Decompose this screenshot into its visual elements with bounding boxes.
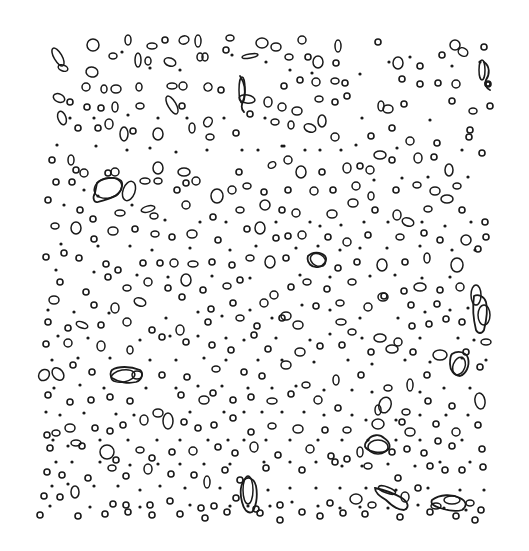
solid-dot — [466, 175, 469, 178]
solid-dot — [108, 356, 111, 359]
solid-dot — [322, 388, 325, 391]
solid-dot — [262, 460, 265, 463]
solid-dot — [185, 116, 188, 119]
solid-dot — [478, 60, 481, 63]
solid-dot — [66, 444, 69, 447]
solid-dot — [220, 384, 223, 387]
solid-dot — [222, 116, 225, 119]
solid-dot — [128, 463, 131, 466]
solid-dot — [264, 60, 267, 63]
solid-dot — [168, 334, 171, 337]
solid-dot — [125, 148, 128, 151]
solid-dot — [350, 413, 353, 416]
solid-dot — [260, 410, 263, 413]
solid-dot — [416, 503, 419, 506]
solid-dot — [339, 223, 342, 226]
solid-dot — [178, 462, 181, 465]
solid-dot — [228, 248, 231, 251]
solid-dot — [144, 386, 147, 389]
solid-dot — [218, 486, 221, 489]
solid-dot — [164, 316, 167, 319]
solid-dot — [346, 358, 349, 361]
solid-dot — [418, 244, 421, 247]
solid-dot — [130, 203, 133, 206]
solid-dot — [246, 386, 249, 389]
solid-dot — [92, 270, 95, 273]
solid-dot — [280, 410, 283, 413]
solid-dot — [256, 148, 259, 151]
solid-dot — [98, 460, 101, 463]
solid-dot — [318, 148, 321, 151]
solid-dot — [366, 438, 369, 441]
solid-dot — [158, 484, 161, 487]
solid-dot — [450, 248, 453, 251]
solid-dot — [68, 116, 71, 119]
solid-dot — [132, 413, 135, 416]
solid-dot — [222, 410, 225, 413]
solid-dot — [386, 462, 389, 465]
solid-dot — [358, 246, 361, 249]
solid-dot — [163, 218, 166, 221]
solid-dot — [198, 220, 201, 223]
solid-dot — [442, 506, 445, 509]
solid-dot — [456, 336, 459, 339]
solid-dot — [50, 358, 53, 361]
solid-dot — [469, 220, 472, 223]
solid-dot — [372, 178, 375, 181]
solid-dot — [148, 66, 151, 69]
particle-outline-image — [0, 0, 529, 551]
solid-dot — [288, 460, 291, 463]
solid-dot — [394, 418, 397, 421]
solid-dot — [228, 462, 231, 465]
solid-dot — [266, 488, 269, 491]
solid-dot — [350, 388, 353, 391]
solid-dot — [418, 438, 421, 441]
solid-dot — [92, 484, 95, 487]
solid-dot — [50, 484, 53, 487]
solid-dot — [268, 504, 271, 507]
solid-dot — [174, 358, 177, 361]
solid-dot — [443, 224, 446, 227]
solid-dot — [228, 504, 231, 507]
solid-dot — [426, 175, 429, 178]
solid-dot — [224, 220, 227, 223]
solid-dot — [205, 148, 208, 151]
solid-dot — [46, 308, 49, 311]
solid-dot — [116, 484, 119, 487]
solid-dot — [418, 413, 421, 416]
solid-dot — [78, 383, 81, 386]
solid-dot — [386, 220, 389, 223]
solid-dot — [298, 273, 301, 276]
solid-dot — [370, 390, 373, 393]
solid-dot — [102, 386, 105, 389]
solid-dot — [196, 384, 199, 387]
solid-dot — [310, 71, 313, 74]
solid-dot — [426, 486, 429, 489]
solid-dot — [254, 244, 257, 247]
solid-dot — [96, 194, 99, 197]
solid-dot — [56, 334, 59, 337]
solid-dot — [386, 506, 389, 509]
solid-dot — [148, 358, 151, 361]
solid-dot — [72, 310, 75, 313]
solid-dot — [393, 273, 396, 276]
solid-dot — [395, 146, 398, 149]
solid-dot — [300, 303, 303, 306]
solid-dot — [448, 275, 451, 278]
solid-dot — [242, 410, 245, 413]
solid-dot — [264, 438, 267, 441]
solid-dot — [394, 438, 397, 441]
solid-dot — [408, 55, 411, 58]
solid-dot — [270, 316, 273, 319]
solid-dot — [62, 203, 65, 206]
solid-dot — [358, 316, 361, 319]
solid-dot — [466, 306, 469, 309]
solid-dot — [322, 413, 325, 416]
solid-dot — [468, 460, 471, 463]
solid-dot — [156, 462, 159, 465]
solid-dot — [240, 148, 243, 151]
solid-dot — [394, 488, 397, 491]
solid-dot — [280, 358, 283, 361]
solid-dot — [358, 505, 361, 508]
solid-dot — [448, 308, 451, 311]
